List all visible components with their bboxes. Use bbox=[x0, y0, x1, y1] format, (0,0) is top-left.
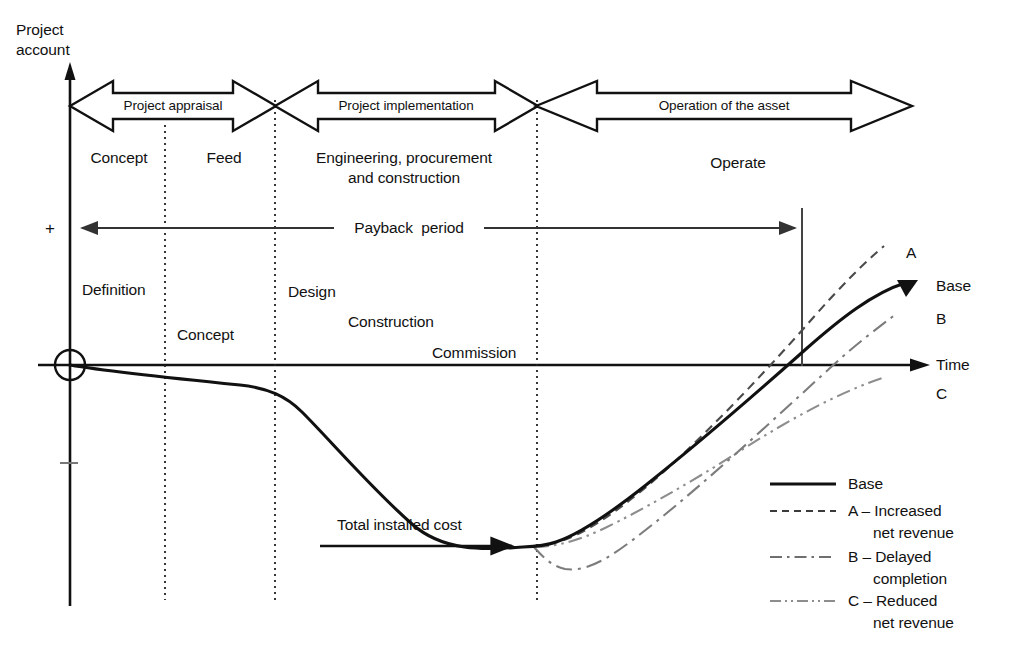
band-label-project-appraisal: Project appraisal bbox=[124, 98, 223, 115]
curve-a-increased-net-revenue bbox=[534, 246, 884, 546]
legend-label-b-line1: B – Delayed bbox=[848, 547, 931, 566]
x-axis-label-time: Time bbox=[936, 355, 969, 374]
curve-c-reduced-net-revenue bbox=[535, 377, 885, 547]
stage-label-epc-line1: Engineering, procurement bbox=[316, 148, 492, 167]
curve-end-label-a: A bbox=[906, 243, 916, 262]
plus-sign-label: + bbox=[45, 218, 55, 239]
curve-end-label-c: C bbox=[936, 384, 947, 403]
stage-label-definition: Definition bbox=[82, 280, 146, 299]
stage-label-design: Design bbox=[288, 282, 336, 301]
annotation-total-installed-cost: Total installed cost bbox=[337, 515, 462, 534]
stage-label-concept-inner: Concept bbox=[177, 325, 234, 344]
legend-label-base: Base bbox=[848, 474, 883, 493]
stage-label-construction: Construction bbox=[348, 312, 434, 331]
y-axis-title-line1: Project bbox=[16, 20, 64, 40]
curve-end-label-base: Base bbox=[936, 276, 971, 295]
curve-base bbox=[70, 283, 905, 549]
curve-end-label-b: B bbox=[936, 309, 946, 328]
band-label-operation-of-the-asset: Operation of the asset bbox=[659, 98, 790, 115]
stage-label-operate: Operate bbox=[710, 153, 765, 172]
legend-label-c-line2: net revenue bbox=[873, 613, 954, 632]
stage-label-epc-line2: and construction bbox=[348, 168, 460, 187]
annotation-payback-period: Payback period bbox=[354, 218, 464, 237]
legend-label-c-line1: C – Reduced bbox=[848, 591, 937, 610]
y-axis bbox=[65, 62, 76, 606]
curve-b-delayed-completion bbox=[533, 314, 896, 569]
curve-base-arrowhead bbox=[897, 280, 918, 297]
legend-label-a-line2: net revenue bbox=[873, 523, 954, 542]
legend-keys bbox=[770, 484, 836, 601]
legend-label-a-line1: A – Increased bbox=[848, 501, 942, 520]
legend-label-b-line2: completion bbox=[873, 569, 947, 588]
band-label-project-implementation: Project implementation bbox=[338, 98, 473, 115]
stage-label-commission: Commission bbox=[432, 343, 516, 362]
diagram-canvas: Project account + – Project appraisal Pr… bbox=[0, 0, 1016, 646]
stage-label-feed: Feed bbox=[207, 148, 242, 167]
stage-label-concept-top: Concept bbox=[90, 148, 147, 167]
y-axis-title-line2: account bbox=[16, 40, 70, 60]
